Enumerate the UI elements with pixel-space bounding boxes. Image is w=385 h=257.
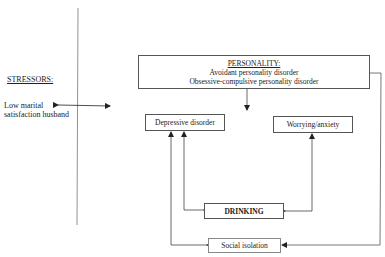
drinking-label: DRINKING <box>224 207 263 216</box>
depressive-disorder-box: Depressive disorder <box>145 114 225 131</box>
personality-line-2: Obsessive-compulsive personality disorde… <box>189 77 318 86</box>
social-isolation-label: Social isolation <box>221 241 267 250</box>
depressive-disorder-label: Depressive disorder <box>155 118 215 127</box>
worrying-anxiety-box: Worrying/anxiety <box>273 116 353 133</box>
worrying-anxiety-label: Worrying/anxiety <box>287 120 340 129</box>
personality-box: PERSONALITY: Avoidant personality disord… <box>138 55 370 89</box>
social-isolation-box: Social isolation <box>208 238 281 253</box>
stressors-heading: STRESSORS: <box>7 75 53 85</box>
personality-line-1: Avoidant personality disorder <box>209 68 298 77</box>
stressor-item-line-2: satisfaction husband <box>4 110 69 120</box>
personality-heading: PERSONALITY: <box>228 59 281 68</box>
drinking-box: DRINKING <box>204 203 284 219</box>
